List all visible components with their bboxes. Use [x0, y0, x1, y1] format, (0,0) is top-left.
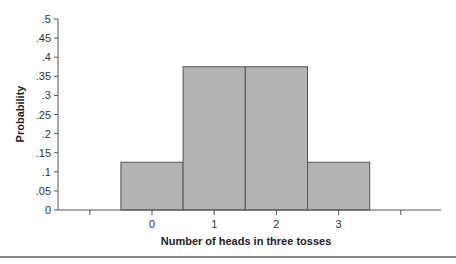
y-tick-label: .4 — [42, 51, 51, 63]
bar-2 — [245, 67, 307, 210]
y-tick-label: .05 — [36, 185, 51, 197]
x-axis: 0123 — [58, 210, 441, 230]
x-tick-label: 0 — [149, 218, 155, 230]
x-tick-label: 1 — [211, 218, 217, 230]
y-tick-label: .45 — [36, 32, 51, 44]
y-tick-label: .25 — [36, 109, 51, 121]
y-tick-label: .1 — [42, 166, 51, 178]
bar-3 — [308, 162, 370, 210]
x-tick-label: 2 — [273, 218, 279, 230]
y-tick-label: .35 — [36, 70, 51, 82]
bar-1 — [183, 67, 245, 210]
x-axis-title: Number of heads in three tosses — [161, 235, 332, 247]
y-tick-label: .3 — [42, 89, 51, 101]
bars — [121, 67, 370, 210]
probability-histogram: 0.05.1.15.2.25.3.35.4.45.5 0123 Probabil… — [0, 0, 456, 264]
y-axis: 0.05.1.15.2.25.3.35.4.45.5 — [36, 13, 58, 216]
y-axis-title: Probability — [14, 85, 26, 143]
y-tick-label: .15 — [36, 147, 51, 159]
bar-0 — [121, 162, 183, 210]
y-tick-label: .5 — [42, 13, 51, 25]
y-tick-label: 0 — [45, 204, 51, 216]
x-tick-label: 3 — [336, 218, 342, 230]
y-tick-label: .2 — [42, 128, 51, 140]
bottom-divider — [0, 256, 456, 258]
